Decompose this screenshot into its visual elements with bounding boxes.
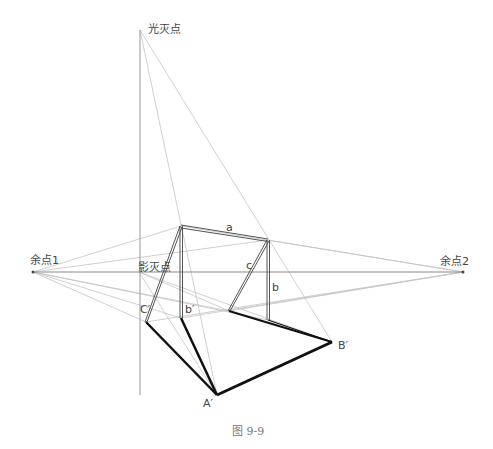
edge-label-c: c <box>246 260 252 271</box>
vp1-label: 余点1 <box>30 255 59 266</box>
shadow-outline <box>146 311 332 395</box>
diagram-canvas: 光灭点 余点1 余点2 影灭点 a b c b′ C′ A′ B′ 图 9-9 <box>0 0 493 449</box>
edge-label-a: a <box>226 222 233 233</box>
figure-caption: 图 9-9 <box>232 422 264 438</box>
light-rays <box>140 30 332 395</box>
edge-label-b: b <box>272 282 279 293</box>
vp2-label: 余点2 <box>440 256 469 267</box>
perspective-shadow-diagram <box>0 0 493 449</box>
shadow-vanishing-point-label: 影灭点 <box>138 262 171 273</box>
light-vanishing-point-label: 光灭点 <box>148 24 181 35</box>
vp2-dot <box>462 271 465 274</box>
edge-label-b-prime: b′ <box>185 304 194 315</box>
point-label-c-prime: C′ <box>140 304 150 315</box>
vp1-dot <box>32 271 35 274</box>
point-label-a-prime: A′ <box>203 398 213 409</box>
point-label-b-prime: B′ <box>338 340 348 351</box>
